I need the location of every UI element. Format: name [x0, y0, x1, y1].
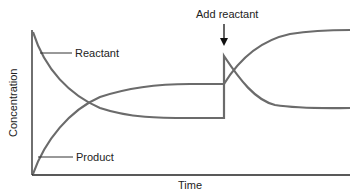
concentration-time-chart: Reactant Product Add reactant Time Conce… [0, 0, 364, 194]
y-axis-title: Concentration [7, 69, 19, 138]
add-reactant-label: Add reactant [196, 8, 258, 20]
reactant-curve [33, 32, 350, 118]
x-axis-title: Time [178, 179, 202, 191]
reactant-label: Reactant [75, 47, 119, 59]
product-label: Product [76, 151, 114, 163]
down-arrow-icon [220, 24, 228, 46]
